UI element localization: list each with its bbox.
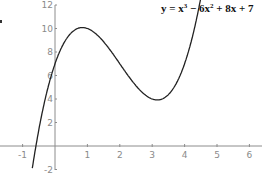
cubic-curve — [32, 0, 202, 168]
y-tick-label: 2 — [47, 118, 53, 128]
x-tick-label: 6 — [247, 150, 253, 160]
y-tick-label: 12 — [42, 0, 53, 10]
x-tick-label: 4 — [182, 150, 188, 160]
y-tick-label: 8 — [47, 47, 53, 57]
x-tick-label: 3 — [149, 150, 155, 160]
x-tick-label: 2 — [117, 150, 123, 160]
chart-canvas: -1123456 -224681012 y = x3 − 6x2 + 8x + … — [0, 0, 271, 182]
x-tick-label: -1 — [18, 150, 27, 160]
edge-artifact — [0, 20, 2, 23]
y-tick-label: -2 — [44, 165, 53, 175]
y-tick-label: 10 — [42, 24, 54, 34]
y-tick-label: 4 — [47, 94, 53, 104]
x-tick-label: 5 — [214, 150, 220, 160]
chart-title: y = x3 − 6x2 + 8x + 7 — [161, 2, 254, 14]
x-tick-label: 1 — [85, 150, 91, 160]
